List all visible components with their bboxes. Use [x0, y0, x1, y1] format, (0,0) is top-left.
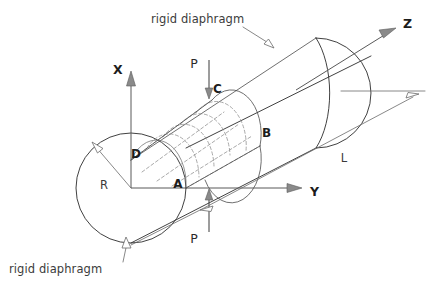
length-label: L [341, 151, 348, 165]
x-axis-arrowhead [127, 71, 136, 86]
point-label-c: C [213, 82, 222, 96]
cylinder-bottom-silhouette [131, 148, 316, 243]
load-top-label: P [190, 56, 198, 71]
radius-dimension: R [92, 142, 131, 192]
mesh-hoop [196, 101, 246, 151]
point-label-b: B [262, 126, 271, 140]
y-axis-arrowhead [287, 184, 302, 193]
figure-canvas: X Y Z A B C D P P [0, 0, 431, 290]
y-axis-label: Y [309, 184, 320, 199]
diaphragm-bottom-label: rigid diaphragm [9, 262, 102, 276]
z-axis-label: Z [403, 16, 412, 31]
diaphragm-top-arrowhead [264, 39, 274, 48]
mesh-segment-far-lip [205, 146, 261, 203]
point-labels: A B C D [131, 82, 271, 191]
mesh-generator [157, 124, 239, 181]
coordinate-axes: X Y Z [113, 16, 412, 199]
x-axis-label: X [113, 62, 123, 77]
annotation-diaphragm-top: rigid diaphragm [151, 12, 274, 48]
mesh-edge-a-b [186, 146, 260, 188]
load-top-arrowhead [205, 88, 213, 99]
cylinder-top-generator [131, 38, 316, 160]
point-label-d: D [131, 147, 141, 161]
pinch-loads: P P [190, 56, 213, 246]
mesh-generator [172, 136, 252, 186]
mesh-hoop [180, 114, 230, 155]
diaphragm-top-label: rigid diaphragm [151, 12, 244, 26]
load-bottom-arrowhead [205, 189, 213, 200]
radius-label: R [100, 178, 108, 192]
pinched-cylinder-diagram: X Y Z A B C D P P [0, 0, 431, 290]
far-end-ellipse [316, 38, 371, 148]
point-label-a: A [173, 177, 183, 191]
annotation-diaphragm-bottom: rigid diaphragm [9, 237, 131, 276]
load-bottom-label: P [190, 231, 198, 246]
